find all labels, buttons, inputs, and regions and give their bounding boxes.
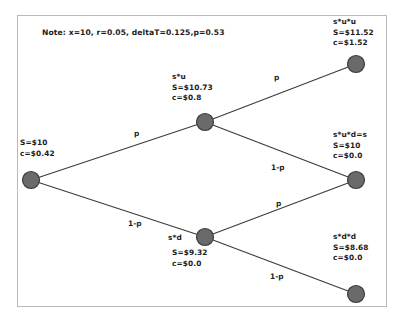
figure-canvas: Note: x=10, r=0.05, deltaT=0.125,p=0.53 … bbox=[0, 0, 405, 320]
node-downdown[interactable] bbox=[348, 286, 365, 303]
node-label-down-name: s*d bbox=[168, 233, 182, 244]
edge-down-updown bbox=[205, 180, 356, 237]
node-root[interactable] bbox=[23, 172, 40, 189]
edge-root-up bbox=[31, 122, 205, 180]
node-label-down-values: S=$9.32 c=$0.0 bbox=[172, 248, 208, 269]
node-root-call: c=$0.42 bbox=[20, 149, 55, 160]
node-downdown-call: c=$0.0 bbox=[333, 253, 369, 264]
node-up-call: c=$0.8 bbox=[172, 93, 213, 104]
node-down[interactable] bbox=[197, 229, 214, 246]
node-label-up: s*u S=$10.73 c=$0.8 bbox=[172, 72, 213, 104]
node-upup[interactable] bbox=[348, 56, 365, 73]
edge-label-root-up: p bbox=[134, 129, 139, 138]
node-updown-call: c=$0.0 bbox=[333, 151, 367, 162]
node-downdown-stock: S=$8.68 bbox=[333, 243, 369, 254]
node-updown-stock: S=$10 bbox=[333, 141, 367, 152]
node-updown[interactable] bbox=[348, 172, 365, 189]
edge-root-down bbox=[31, 180, 205, 237]
node-updown-name: s*u*d=s bbox=[333, 130, 367, 141]
edge-label-down-downdown: 1-p bbox=[270, 272, 284, 281]
node-downdown-name: s*d*d bbox=[333, 232, 369, 243]
note-text: Note: x=10, r=0.05, deltaT=0.125,p=0.53 bbox=[42, 28, 225, 37]
node-up-stock: S=$10.73 bbox=[172, 83, 213, 94]
node-label-upup: s*u*u S=$11.52 c=$1.52 bbox=[333, 17, 374, 49]
edge-label-down-updown: p bbox=[276, 199, 281, 208]
node-upup-stock: S=$11.52 bbox=[333, 28, 374, 39]
node-upup-name: s*u*u bbox=[333, 17, 374, 28]
edge-up-upup bbox=[205, 64, 356, 122]
node-down-call: c=$0.0 bbox=[172, 259, 208, 270]
node-up[interactable] bbox=[197, 114, 214, 131]
node-up-name: s*u bbox=[172, 72, 213, 83]
edge-label-root-down: 1-p bbox=[128, 219, 142, 228]
node-label-updown: s*u*d=s S=$10 c=$0.0 bbox=[333, 130, 367, 162]
node-label-downdown: s*d*d S=$8.68 c=$0.0 bbox=[333, 232, 369, 264]
node-down-name: s*d bbox=[168, 233, 182, 244]
edge-label-up-updown: 1-p bbox=[271, 163, 285, 172]
node-upup-call: c=$1.52 bbox=[333, 38, 374, 49]
node-label-root: S=$10 c=$0.42 bbox=[20, 138, 55, 159]
edge-label-up-upup: p bbox=[274, 73, 279, 82]
node-down-stock: S=$9.32 bbox=[172, 248, 208, 259]
node-root-stock: S=$10 bbox=[20, 138, 55, 149]
